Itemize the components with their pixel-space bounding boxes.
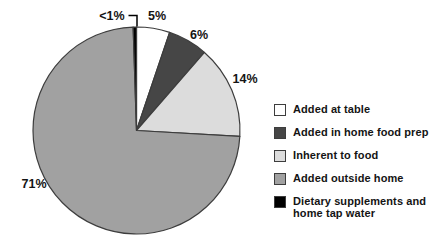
- legend-swatch-inherent-to-food: [274, 150, 286, 162]
- legend-item-dietary-supplements: Dietary supplements and home tap water: [274, 196, 429, 219]
- legend-label-home-food-prep: Added in home food prep: [293, 127, 429, 139]
- pie-chart-figure: 5% 6% 14% 71% <1% Added at table Added i…: [0, 0, 433, 246]
- legend-item-inherent-to-food: Inherent to food: [274, 150, 429, 162]
- legend-item-added-at-table: Added at table: [274, 104, 429, 116]
- legend-swatch-dietary-supplements: [274, 196, 286, 208]
- legend-swatch-home-food-prep: [274, 127, 286, 139]
- legend-label-added-outside-home: Added outside home: [293, 173, 404, 185]
- legend-item-home-food-prep: Added in home food prep: [274, 127, 429, 139]
- legend-label-inherent-to-food: Inherent to food: [293, 150, 378, 162]
- slice-value-label-dietary-supplements: <1%: [99, 9, 124, 23]
- legend: Added at table Added in home food prep I…: [274, 104, 429, 230]
- legend-label-dietary-supplements: Dietary supplements and home tap water: [293, 196, 426, 219]
- slice-value-label-home-food-prep: 6%: [190, 28, 208, 42]
- leader-line-lt1: [129, 16, 138, 27]
- legend-item-added-outside-home: Added outside home: [274, 173, 429, 185]
- legend-swatch-added-outside-home: [274, 173, 286, 185]
- slice-value-label-inherent-to-food: 14%: [232, 72, 257, 86]
- slice-value-label-added-at-table: 5%: [148, 9, 166, 23]
- slice-value-label-added-outside-home: 71%: [21, 177, 46, 191]
- legend-label-added-at-table: Added at table: [293, 104, 370, 116]
- legend-swatch-added-at-table: [274, 104, 286, 116]
- pie-slices: [33, 27, 240, 234]
